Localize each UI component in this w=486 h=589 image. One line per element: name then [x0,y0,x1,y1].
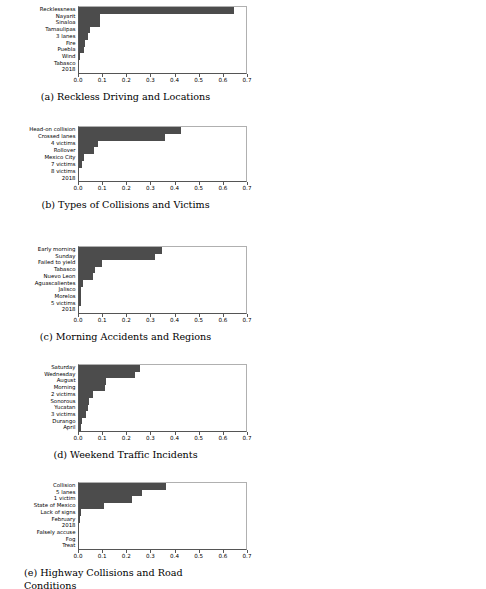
axes-b [78,126,247,182]
bar-series-d [79,365,246,431]
x-tick-label: 0.0 [74,77,83,83]
bar-series-b [79,127,246,181]
bar [79,260,102,267]
bar [79,293,81,300]
bar [79,365,140,372]
y-tick-label: Tabasco [4,61,78,66]
y-tick-label: Durango [4,419,78,424]
axes-a [78,6,247,74]
y-tick-label: Fire [4,41,78,46]
bar-row [79,490,246,497]
bar-row [79,385,246,392]
x-tick-label: 0.5 [194,77,203,83]
bar-row [79,365,246,372]
y-tick-label: Tamaulipas [4,27,78,32]
y-tick-label: Nayarit [4,14,78,19]
axes-wrapper-b: Head-on collisionCrossed lanes4 victimsR… [4,126,247,182]
bar-row [79,529,246,536]
y-tick-label: 4 victims [4,141,78,146]
x-tick-label: 0.3 [146,77,155,83]
y-tick-label: 2018 [4,523,78,528]
subplot-grid: RecklessnessNayaritSinaloaTamaulipas3 la… [4,6,482,589]
bar [79,27,90,34]
bar-row [79,509,246,516]
plot-area-c: Early morningSundayFailed to yieldTabasc… [4,246,247,344]
bar-row [79,424,246,431]
bar [79,33,88,40]
y-tick-label: Wednesday [4,372,78,377]
axes-c [78,246,247,314]
subplot-caption-b: (b) Types of Collisions and Victims [4,199,247,212]
bar-row [79,300,246,307]
bar [79,300,81,307]
axes-wrapper-d: SaturdayWednesdayAugustMorning2 victimsS… [4,364,247,432]
x-tick-label: 0.6 [218,77,227,83]
bar [79,509,81,516]
x-tick-label: 0.7 [243,77,252,83]
bar-row [79,260,246,267]
x-tick-label: 0.3 [146,317,155,323]
bar-row [79,287,246,294]
bar-row [79,27,246,34]
y-tick-label: August [4,378,78,383]
bar-row [79,60,246,67]
plot-area-d: SaturdayWednesdayAugustMorning2 victimsS… [4,364,247,462]
y-tick-label: Puebla [4,47,78,52]
axes-wrapper-e: Collision5 lanes1 victimState of MexicoL… [4,482,247,550]
x-tick-label: 0.1 [98,77,107,83]
x-axis-e: 0.00.10.20.30.40.50.60.7 [78,550,247,561]
bar [79,405,88,412]
axes-d [78,364,247,432]
x-axis-d: 0.00.10.20.30.40.50.60.7 [78,432,247,443]
bar-row [79,147,246,154]
bar-row [79,536,246,543]
y-tick-label: Sunday [4,254,78,259]
x-tick-label: 0.1 [98,553,107,559]
x-tick-label: 0.1 [98,435,107,441]
y-tick-label: Yucatan [4,405,78,410]
bar-row [79,33,246,40]
bar [79,154,84,161]
x-tick-label: 0.7 [243,317,252,323]
subplot-caption-c: (c) Morning Accidents and Regions [4,331,247,344]
y-tick-label: Nuevo Leon [4,274,78,279]
subplot-c: Early morningSundayFailed to yieldTabasc… [4,246,247,364]
bar-series-e [79,483,246,549]
bar-row [79,496,246,503]
axes-wrapper-c: Early morningSundayFailed to yieldTabasc… [4,246,247,314]
y-tick-label: 2018 [4,176,78,181]
bar [79,53,80,60]
bar [79,391,93,398]
bar-row [79,523,246,530]
subplot-a: RecklessnessNayaritSinaloaTamaulipas3 la… [4,6,247,126]
x-tick-label: 0.5 [194,317,203,323]
bar [79,378,106,385]
bar-row [79,247,246,254]
bar [79,483,166,490]
bar-row [79,418,246,425]
bar-row [79,372,246,379]
x-tick-label: 0.4 [170,435,179,441]
x-tick-label: 0.1 [98,185,107,191]
x-tick-label: 0.0 [74,185,83,191]
bar [79,372,135,379]
subplot-caption-a: (a) Reckless Driving and Locations [4,91,247,104]
x-tick-label: 0.3 [146,435,155,441]
bar [79,273,93,280]
bar [79,14,100,21]
y-tick-label: Sinaloa [4,20,78,25]
x-axis-c: 0.00.10.20.30.40.50.60.7 [78,314,247,325]
bar-row [79,161,246,168]
y-tick-label: State of Mexico [4,503,78,508]
y-tick-label: 7 victims [4,162,78,167]
bar [79,287,81,294]
x-tick-label: 0.7 [243,185,252,191]
y-tick-label: Recklessness [4,7,78,12]
y-tick-label: February [4,517,78,522]
x-tick-label: 0.2 [122,317,131,323]
x-tick-label: 0.7 [243,553,252,559]
x-tick-label: 0.4 [170,553,179,559]
bar-row [79,14,246,21]
bar [79,516,80,523]
x-tick-label: 0.0 [74,317,83,323]
